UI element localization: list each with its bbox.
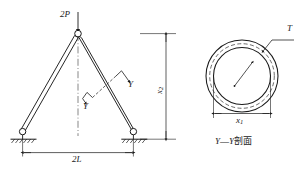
right-member [78, 36, 135, 132]
engineering-figure: 2P Y Y 2L x2 T x1 Y—Y剖面 [0, 0, 307, 173]
figure-drawing-canvas [0, 0, 307, 173]
thickness-leader-line [263, 40, 294, 51]
tube-cross-section [206, 40, 294, 118]
height-dim-subscript: 2 [157, 87, 164, 90]
diameter-dim-subscript: 1 [240, 118, 243, 125]
right-pin-support-icon [121, 128, 147, 143]
truss-assembly [11, 12, 177, 157]
section-label-y-upper: Y [128, 80, 133, 89]
section-cut-y-y [83, 71, 129, 103]
height-dim-base: x [154, 90, 164, 94]
left-pin-support-icon [11, 128, 37, 143]
caption-dash: — [220, 136, 229, 146]
section-label-y-lower: Y [83, 102, 88, 111]
apex-pin-joint-icon [75, 30, 82, 37]
span-dimension-label-2l: 2L [72, 155, 82, 164]
thickness-label-t: T [287, 24, 292, 33]
diameter-dimension-label-x1: x1 [236, 116, 243, 126]
caption-section-cn: 剖面 [234, 136, 252, 146]
left-member [21, 36, 78, 132]
height-dimension-label-x2: x2 [155, 87, 165, 94]
load-label-2p: 2P [60, 10, 70, 19]
section-view-caption: Y—Y剖面 [215, 134, 252, 147]
